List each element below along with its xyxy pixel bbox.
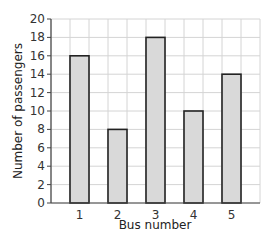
y-tick-label: 10 (30, 104, 45, 118)
bar-bus-5 (222, 74, 241, 203)
y-tick-labels: 02468101214161820 (30, 12, 45, 210)
x-tick-label: 1 (76, 208, 84, 222)
y-tick-label: 12 (30, 86, 45, 100)
bar-bus-3 (146, 37, 165, 203)
y-tick-label: 18 (30, 30, 45, 44)
y-axis-label: Number of passengers (11, 43, 25, 179)
y-tick-label: 0 (37, 196, 45, 210)
y-tick-label: 20 (30, 12, 45, 26)
y-tick-label: 8 (37, 122, 45, 136)
y-tick-label: 2 (37, 178, 45, 192)
bars (70, 37, 241, 203)
x-tick-label: 5 (228, 208, 236, 222)
bar-bus-2 (108, 129, 127, 203)
bar-chart: 02468101214161820 12345 Bus number Numbe… (0, 0, 273, 241)
y-tick-label: 14 (30, 67, 45, 81)
y-tick-label: 4 (37, 159, 45, 173)
bar-bus-1 (70, 56, 89, 203)
bar-bus-4 (184, 111, 203, 203)
y-tick-label: 6 (37, 141, 45, 155)
x-axis-label: Bus number (119, 218, 192, 232)
y-tick-label: 16 (30, 49, 45, 63)
